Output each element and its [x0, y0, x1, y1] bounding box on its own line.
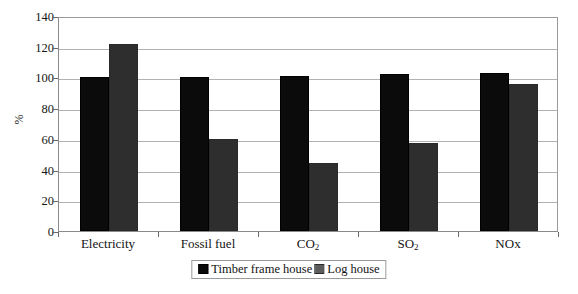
x-axis-tick-label-nox: NOx: [448, 236, 568, 252]
bar-chart-figure: % 020406080100120140 ElectricityFossil f…: [0, 0, 578, 294]
legend-swatch-icon: [198, 264, 208, 274]
bar-electricity-timber-frame-house: [80, 77, 109, 231]
legend-label: Timber frame house: [211, 262, 312, 276]
y-axis-tick-label: 120: [14, 42, 54, 54]
bar-fossil-fuel-timber-frame-house: [180, 77, 209, 231]
bar-nox-log-house: [509, 84, 538, 231]
y-axis-tick-label: 20: [14, 195, 54, 207]
legend-swatch-icon: [314, 264, 324, 274]
bar-electricity-log-house: [109, 44, 138, 231]
bar-nox-timber-frame-house: [480, 73, 509, 231]
legend-entry-log-house: Log house: [313, 262, 380, 276]
bar-so2-log-house: [409, 143, 438, 231]
bar-fossil-fuel-log-house: [209, 139, 238, 231]
y-axis-tick-label: 100: [14, 72, 54, 84]
bar-co2-log-house: [309, 163, 338, 231]
plot-area: [58, 17, 558, 232]
legend-entry-timber-frame-house: Timber frame house: [197, 262, 313, 276]
chart-legend: Timber frame houseLog house: [191, 260, 386, 279]
y-axis-tick-label: 80: [14, 103, 54, 115]
bar-co2-timber-frame-house: [280, 76, 309, 231]
legend-label: Log house: [327, 262, 379, 276]
bar-so2-timber-frame-house: [380, 74, 409, 231]
y-axis-tick-label: 140: [14, 11, 54, 23]
y-axis-tick-label: 40: [14, 165, 54, 177]
y-axis-tick-label: 60: [14, 134, 54, 146]
